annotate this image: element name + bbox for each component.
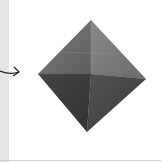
face-bottom-right (87, 74, 146, 132)
face-bottom-left (38, 74, 91, 132)
face-top-right (91, 20, 146, 79)
face-top-left (38, 20, 91, 74)
photo-canvas (0, 0, 161, 162)
arrow-icon (0, 67, 19, 76)
origami-octahedron (38, 20, 146, 132)
